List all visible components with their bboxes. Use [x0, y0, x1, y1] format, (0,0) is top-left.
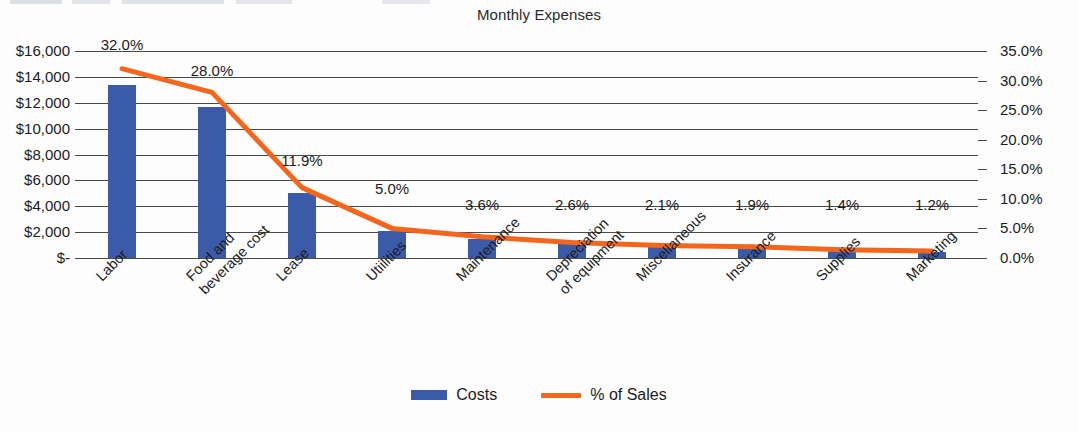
legend-label: Costs: [456, 386, 497, 404]
left-axis-tick-mark: [75, 51, 84, 52]
right-axis-tick-label: 30.0%: [1000, 72, 1078, 89]
left-axis-tick-label: $4,000: [0, 197, 70, 214]
right-axis-tick-label: 5.0%: [1000, 219, 1078, 236]
data-label: 32.0%: [101, 36, 144, 53]
right-axis-tick-label: 0.0%: [1000, 249, 1078, 266]
legend-line-swatch-icon: [541, 393, 581, 398]
chart-container: Monthly Expenses $16,000$14,000$12,000$1…: [0, 0, 1078, 432]
legend-bar-swatch-icon: [411, 390, 447, 400]
right-axis-tick-label: 10.0%: [1000, 190, 1078, 207]
left-axis-tick-mark: [75, 232, 84, 233]
left-axis-tick-mark: [75, 103, 84, 104]
data-label: 2.1%: [645, 196, 679, 213]
left-axis-tick-label: $8,000: [0, 146, 70, 163]
data-label: 3.6%: [465, 196, 499, 213]
right-axis-tick-mark: [978, 51, 987, 52]
data-label: 1.4%: [825, 196, 859, 213]
data-label: 1.9%: [735, 196, 769, 213]
right-axis-tick-mark: [978, 81, 987, 82]
right-axis-tick-label: 35.0%: [1000, 42, 1078, 59]
right-axis-tick-label: 20.0%: [1000, 131, 1078, 148]
left-axis-tick-mark: [75, 180, 84, 181]
legend-item[interactable]: Costs: [411, 386, 497, 404]
left-axis-tick-label: $16,000: [0, 42, 70, 59]
data-label: 1.2%: [915, 196, 949, 213]
left-axis-tick-mark: [75, 155, 84, 156]
left-axis-tick-mark: [75, 258, 84, 259]
legend-item[interactable]: % of Sales: [541, 386, 666, 404]
left-axis-tick-label: $2,000: [0, 223, 70, 240]
data-label: 5.0%: [375, 180, 409, 197]
left-axis-tick-label: $-: [0, 249, 70, 266]
left-axis-tick-label: $14,000: [0, 68, 70, 85]
right-axis-tick-mark: [978, 199, 987, 200]
right-axis-tick-mark: [978, 258, 987, 259]
data-label: 11.9%: [281, 152, 322, 169]
left-axis-tick-label: $10,000: [0, 120, 70, 137]
line-series-pct-of-sales: [84, 51, 978, 258]
clipped-header-strip: [10, 0, 430, 4]
left-axis-tick-label: $12,000: [0, 94, 70, 111]
chart-title: Monthly Expenses: [0, 6, 1078, 23]
data-label: 28.0%: [191, 62, 234, 79]
left-axis-tick-mark: [75, 129, 84, 130]
data-label: 2.6%: [555, 196, 589, 213]
right-axis-tick-label: 25.0%: [1000, 101, 1078, 118]
right-axis-tick-mark: [978, 140, 987, 141]
right-axis-tick-mark: [978, 228, 987, 229]
left-axis-tick-mark: [75, 206, 84, 207]
left-axis-tick-label: $6,000: [0, 171, 70, 188]
legend-label: % of Sales: [590, 386, 666, 404]
right-axis-tick-label: 15.0%: [1000, 160, 1078, 177]
right-axis-tick-mark: [978, 169, 987, 170]
right-axis-tick-mark: [978, 110, 987, 111]
left-axis-tick-mark: [75, 77, 84, 78]
chart-legend: Costs% of Sales: [0, 386, 1078, 404]
plot-area: [84, 51, 978, 258]
